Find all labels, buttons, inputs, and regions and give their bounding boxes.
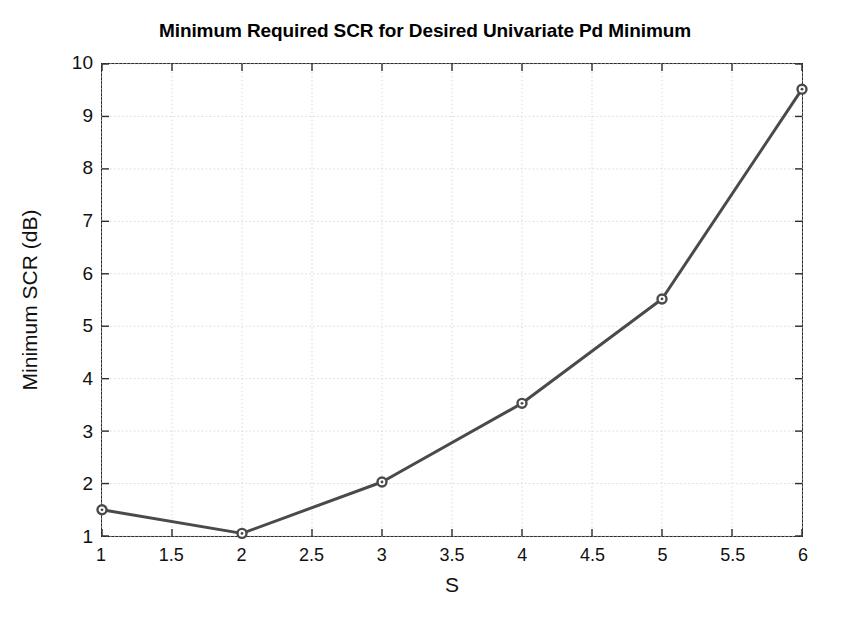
y-tick-label: 5 [82,315,93,337]
y-tick-label: 3 [82,421,93,443]
data-point-center [661,298,664,301]
x-tick-label: 1 [96,545,106,566]
x-axis-tick-labels: 11.522.533.544.555.56 [101,545,803,571]
x-tick-label: 2 [236,545,246,566]
data-point-center [521,402,524,405]
y-axis-tick-labels: 12345678910 [55,63,93,537]
data-point-center [381,481,384,484]
data-line [102,89,802,533]
y-tick-label: 9 [82,105,93,127]
y-tick-label: 4 [82,368,93,390]
y-tick-label: 2 [82,473,93,495]
x-tick-label: 4 [517,545,527,566]
x-tick-label: 5 [658,545,668,566]
x-tick-label: 4.5 [580,545,605,566]
y-tick-label: 6 [82,263,93,285]
data-point-center [101,508,104,511]
data-series-layer [102,64,802,536]
x-tick-label: 3.5 [439,545,464,566]
chart-figure: Minimum Required SCR for Desired Univari… [0,0,850,617]
y-axis-label: Minimum SCR (dB) [18,63,48,537]
y-tick-label: 10 [72,52,93,74]
y-tick-label: 7 [82,210,93,232]
x-tick-label: 3 [377,545,387,566]
x-tick-label: 5.5 [720,545,745,566]
x-tick-label: 2.5 [299,545,324,566]
x-tick-label: 6 [798,545,808,566]
y-tick-label: 8 [82,157,93,179]
plot-area [101,63,803,537]
x-tick-label: 1.5 [159,545,184,566]
y-tick-label: 1 [82,526,93,548]
data-point-center [241,532,244,535]
chart-title: Minimum Required SCR for Desired Univari… [0,20,850,42]
x-axis-label: S [101,573,803,597]
data-point-center [801,88,804,91]
